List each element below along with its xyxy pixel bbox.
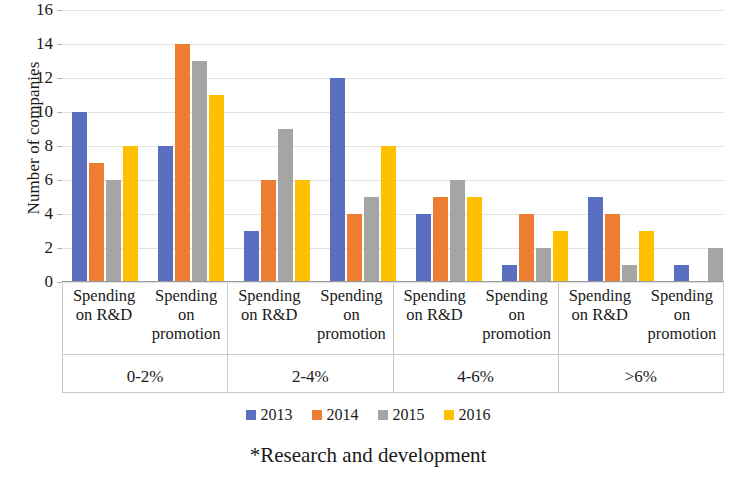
category-label-line: on R&D — [394, 305, 476, 324]
bar — [192, 61, 207, 282]
bar — [450, 180, 465, 282]
category-label: Spendingon R&D — [227, 283, 310, 354]
category-label-line: promotion — [641, 324, 723, 343]
category-label-line: on R&D — [228, 305, 310, 324]
bar — [553, 231, 568, 282]
legend-item[interactable]: 2015 — [378, 406, 425, 424]
bar — [278, 129, 293, 282]
legend-label: 2014 — [327, 406, 359, 424]
category-label: Spendingon R&D — [393, 283, 476, 354]
bar-group — [148, 10, 234, 282]
bar — [519, 214, 534, 282]
category-label: Spendingonpromotion — [476, 283, 558, 354]
bar — [708, 248, 723, 282]
footnote: *Research and development — [0, 443, 736, 468]
bar — [467, 197, 482, 282]
x-axis-line — [62, 281, 724, 282]
legend-swatch-icon — [378, 410, 388, 420]
category-label-line: Spending — [476, 286, 558, 305]
bar — [244, 231, 259, 282]
group-label: 2-4% — [227, 355, 392, 392]
bar — [106, 180, 121, 282]
category-label-line: Spending — [641, 286, 723, 305]
category-label-band: Spendingon R&DSpendingonpromotionSpendin… — [62, 283, 724, 355]
category-label-line: promotion — [145, 324, 227, 343]
bar-group — [234, 10, 320, 282]
y-axis-tick-label: 0 — [45, 272, 54, 292]
bar-group — [62, 10, 148, 282]
bar — [605, 214, 620, 282]
bar — [209, 95, 224, 282]
category-label-line: promotion — [310, 324, 392, 343]
bar — [123, 146, 138, 282]
category-label-line: on — [145, 305, 227, 324]
y-axis-tick-label: 12 — [36, 68, 53, 88]
legend-label: 2016 — [459, 406, 491, 424]
bar-group — [664, 10, 736, 282]
bar-group — [578, 10, 664, 282]
category-label: Spendingonpromotion — [310, 283, 392, 354]
group-label-band: 0-2%2-4%4-6%>6% — [62, 355, 724, 393]
legend-item[interactable]: 2016 — [444, 406, 491, 424]
bar-chart: Number of companies 0246810121416 Spendi… — [0, 0, 736, 483]
legend-swatch-icon — [246, 410, 256, 420]
legend-item[interactable]: 2013 — [246, 406, 293, 424]
bar-group — [406, 10, 492, 282]
legend: 2013201420152016 — [0, 406, 736, 424]
category-label-line: promotion — [476, 324, 558, 343]
bar — [536, 248, 551, 282]
category-label-line: Spending — [394, 286, 476, 305]
y-axis-title: Number of companies — [24, 28, 44, 248]
y-axis-tick-label: 2 — [45, 238, 54, 258]
category-label-line: on — [641, 305, 723, 324]
category-label: Spendingon R&D — [63, 283, 145, 354]
bar-group — [320, 10, 406, 282]
category-label-line: Spending — [228, 286, 310, 305]
category-label: Spendingonpromotion — [145, 283, 227, 354]
category-label-line: Spending — [145, 286, 227, 305]
y-axis-tick-label: 14 — [36, 34, 53, 54]
bar — [588, 197, 603, 282]
category-label-line: Spending — [559, 286, 641, 305]
bar — [502, 265, 517, 282]
bar-group — [492, 10, 578, 282]
bar — [433, 197, 448, 282]
category-label-line: on R&D — [63, 305, 145, 324]
category-label: Spendingon R&D — [558, 283, 641, 354]
legend-item[interactable]: 2014 — [312, 406, 359, 424]
bar — [416, 214, 431, 282]
category-label-line: Spending — [310, 286, 392, 305]
bar — [622, 265, 637, 282]
bar — [364, 197, 379, 282]
bar — [330, 78, 345, 282]
bar — [175, 44, 190, 282]
category-label-line: on — [310, 305, 392, 324]
legend-label: 2015 — [393, 406, 425, 424]
legend-swatch-icon — [444, 410, 454, 420]
bar — [347, 214, 362, 282]
bar — [295, 180, 310, 282]
bar — [89, 163, 104, 282]
category-label-line: Spending — [63, 286, 145, 305]
group-label: >6% — [558, 355, 723, 392]
category-label: Spendingonpromotion — [641, 283, 723, 354]
legend-label: 2013 — [261, 406, 293, 424]
y-axis-tick-label: 4 — [45, 204, 54, 224]
bar — [261, 180, 276, 282]
group-label: 0-2% — [63, 355, 227, 392]
category-label-line: on R&D — [559, 305, 641, 324]
y-axis-tick-label: 6 — [45, 170, 54, 190]
bar — [158, 146, 173, 282]
bar — [381, 146, 396, 282]
y-axis-tick-label: 8 — [45, 136, 54, 156]
category-label-line: on — [476, 305, 558, 324]
y-axis-tick-label: 10 — [36, 102, 53, 122]
plot-area: 0246810121416 — [62, 10, 724, 282]
bar — [674, 265, 689, 282]
bar — [639, 231, 654, 282]
bar-groups — [62, 10, 724, 282]
bar — [72, 112, 87, 282]
legend-swatch-icon — [312, 410, 322, 420]
group-label: 4-6% — [393, 355, 558, 392]
y-axis-tick-label: 16 — [36, 0, 53, 20]
